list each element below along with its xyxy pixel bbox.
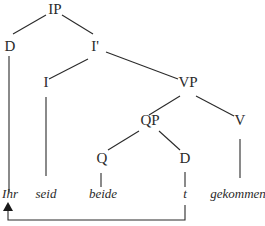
node-vp: VP: [178, 74, 197, 90]
leaf-ihr: Ihr: [1, 186, 19, 201]
node-v: V: [235, 112, 246, 128]
tree-leaves: Ihr seid beide t gekommen: [1, 186, 265, 201]
node-ip: IP: [48, 1, 61, 17]
node-i: I: [44, 74, 49, 90]
leaf-gekommen: gekommen: [210, 186, 265, 201]
tree-nodes: IP D I' I VP QP V Q D: [5, 1, 246, 166]
movement-line: [8, 205, 185, 220]
leaf-seid: seid: [36, 186, 57, 201]
edge-ibar-i: [49, 59, 88, 79]
node-qp: QP: [140, 112, 159, 128]
edge-qp-q: [108, 131, 139, 150]
edge-ip-d: [13, 15, 46, 34]
leaf-beide: beide: [89, 186, 117, 201]
tree-edges: [9, 15, 240, 192]
arrowhead-icon: [3, 202, 13, 211]
edge-ip-ibar: [62, 15, 93, 34]
node-ibar: I': [91, 38, 99, 54]
leaf-trace: t: [183, 186, 187, 201]
movement-arrow: [3, 202, 185, 220]
node-q: Q: [97, 150, 108, 166]
node-d-top: D: [5, 38, 16, 54]
edge-ibar-vp: [106, 52, 178, 79]
node-d-low: D: [180, 150, 191, 166]
edge-qp-d: [159, 131, 180, 150]
edge-vp-v: [196, 96, 234, 116]
syntax-tree-diagram: IP D I' I VP QP V Q D Ihr seid beide t g…: [0, 0, 265, 226]
